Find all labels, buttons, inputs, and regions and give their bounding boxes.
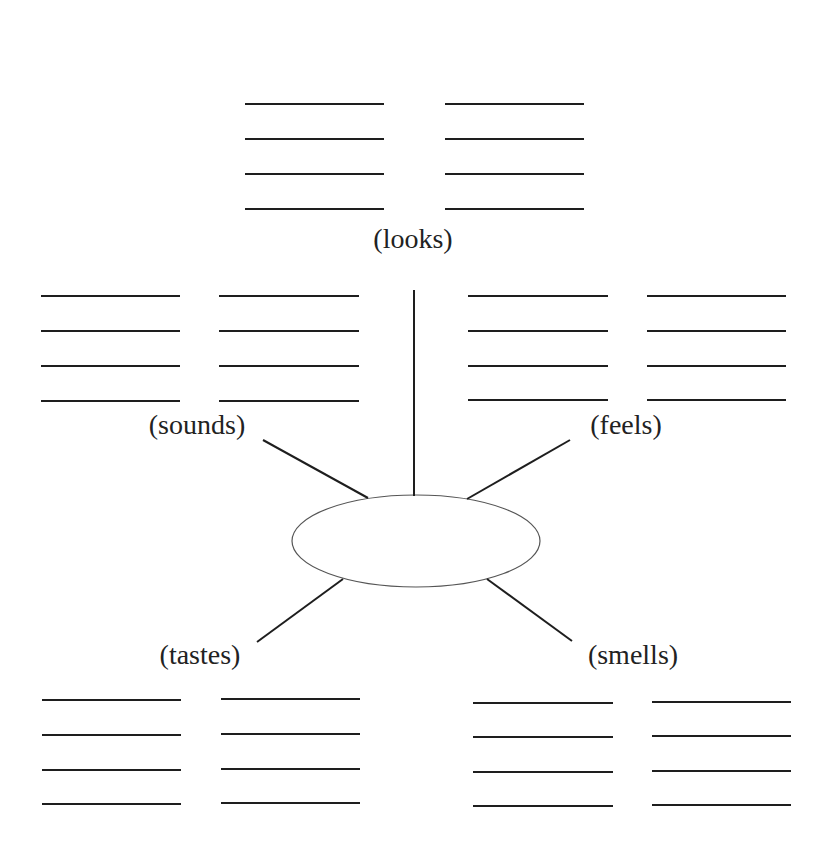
label-looks: (looks): [373, 223, 452, 254]
spoke-tastes: [257, 579, 343, 642]
label-tastes: (tastes): [160, 639, 241, 670]
sensory-web-diagram: (looks)(sounds)(feels)(tastes)(smells): [0, 0, 830, 847]
branch-sounds: (sounds): [41, 296, 368, 498]
spoke-smells: [487, 579, 572, 641]
label-sounds: (sounds): [149, 409, 245, 440]
center-topic-oval[interactable]: [292, 495, 540, 587]
label-smells: (smells): [588, 639, 678, 670]
spoke-sounds: [263, 440, 368, 498]
label-feels: (feels): [590, 409, 662, 440]
branch-looks: (looks): [245, 104, 584, 496]
branch-feels: (feels): [467, 296, 786, 499]
spoke-feels: [467, 440, 570, 499]
branch-tastes: (tastes): [42, 579, 360, 804]
branches: (looks)(sounds)(feels)(tastes)(smells): [41, 104, 791, 806]
branch-smells: (smells): [473, 579, 791, 806]
